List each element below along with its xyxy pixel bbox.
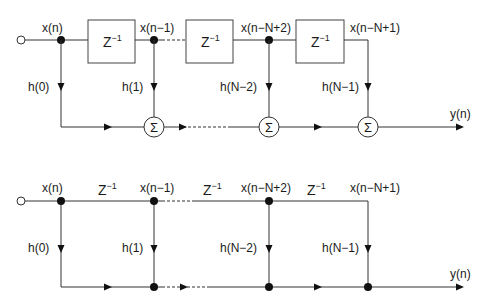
coef-h0: h(0) [28,241,49,255]
arrow-down-icon [365,83,372,91]
arrow-down-icon [365,245,372,253]
arrow-down-icon [151,83,158,91]
coef-h1: h(1) [122,241,143,255]
arrow-down-icon [58,245,65,253]
delay-label-3: Z−1 [307,181,326,198]
coef-h1: h(1) [122,80,143,94]
output-label: y(n) [450,267,471,281]
arrow-right-icon [314,284,322,291]
sum-node-2 [265,283,273,291]
summer-3: Σ [358,117,378,137]
label-x-n-N-2: x(n−N+2) [241,21,291,35]
arrow-down-icon [266,245,273,253]
bottom-signal-flow-diagram: Z−1 Z−1 Z−1 x(n) x(n−1) x(n−N+2) x(n−N+1… [17,181,471,291]
coef-hN-2: h(N−2) [220,241,257,255]
tap-branch-0 [61,201,162,287]
label-x-n-N-1: x(n−N+1) [350,181,400,195]
input-terminal [17,197,25,205]
node-x-n [57,197,65,205]
label-x-n-1: x(n−1) [140,181,174,195]
arrow-down-icon [58,83,65,91]
label-x-n: x(n) [42,181,63,195]
arrow-right-icon [314,124,322,131]
coef-hN-1: h(N−1) [322,80,359,94]
arrow-down-icon [151,245,158,253]
top-direct-form-diagram: Z−1 Z−1 Z−1 x(n) x(n−1) x(n−N+2) x(n−N+1… [17,20,471,137]
arrow-right-icon [179,124,187,131]
fir-filter-diagrams: Z−1 Z−1 Z−1 x(n) x(n−1) x(n−N+2) x(n−N+1… [0,0,487,308]
label-x-n-N-1: x(n−N+1) [350,21,400,35]
arrow-right-icon [104,124,112,131]
coef-hN-1: h(N−1) [322,241,359,255]
label-x-n-N-2: x(n−N+2) [241,181,291,195]
arrow-right-icon [180,284,188,291]
arrow-down-icon [266,83,273,91]
arrow-right-icon [104,284,112,291]
delay-label-1: Z−1 [98,181,117,198]
coef-h0: h(0) [28,80,49,94]
output-arrow-icon [456,284,464,291]
summer-2: Σ [259,117,279,137]
delay-label-2: Z−1 [203,181,222,198]
node-x-n-1 [150,197,158,205]
input-terminal [17,36,25,44]
output-arrow-icon [456,124,464,131]
last-tap-line [344,40,368,117]
sum-node-3 [364,283,372,291]
sigma-icon: Σ [150,120,158,135]
node-x-n-N-2 [265,197,273,205]
sum-node-1 [150,283,158,291]
coef-hN-2: h(N−2) [220,80,257,94]
output-label: y(n) [450,107,471,121]
summer-1: Σ [144,117,164,137]
label-x-n-1: x(n−1) [140,21,174,35]
sigma-icon: Σ [364,120,372,135]
sigma-icon: Σ [265,120,273,135]
label-x-n: x(n) [42,21,63,35]
